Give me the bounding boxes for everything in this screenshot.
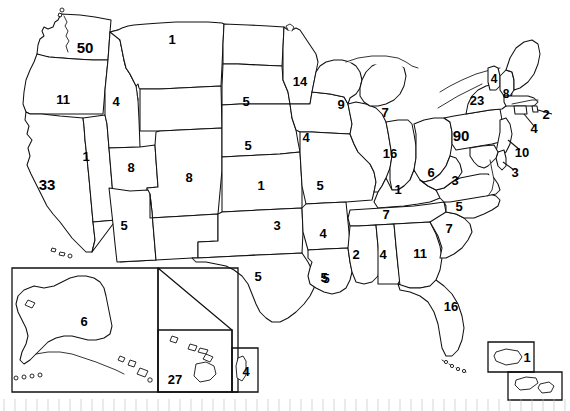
hawaii-island-molokai: [198, 348, 208, 354]
state-louisiana: [308, 248, 352, 294]
state-nebraska: [222, 104, 300, 157]
map-vector-canvas: [0, 0, 570, 411]
hawaii-island-kauai: [170, 336, 178, 343]
key-islet-2: [450, 364, 453, 367]
alaska-shape: [16, 276, 112, 364]
label-montana: 1: [168, 33, 175, 46]
label-mississippi: 2: [352, 248, 359, 261]
label-alaska: 6: [80, 315, 87, 328]
label-vermont: 4: [491, 73, 498, 85]
aleutian-islet-4: [38, 373, 42, 377]
dc-shape: [494, 349, 522, 365]
label-wisconsin: 9: [337, 98, 344, 111]
label-oregon: 11: [56, 93, 70, 106]
label-rhode-island: 2: [542, 108, 549, 121]
state-north-dakota: [223, 24, 284, 66]
key-islet-4: [462, 369, 465, 372]
label-tennessee: 7: [382, 208, 389, 221]
label-district-of-columbia: 1: [523, 351, 530, 364]
lower-right-inset-shape-2: [538, 382, 554, 393]
scan-artifact-strip: [0, 399, 570, 411]
key-islet-3: [456, 367, 459, 370]
islet-detail-2: [58, 13, 62, 17]
key-islet-1: [444, 360, 447, 363]
label-virginia: 3: [451, 174, 458, 187]
label-idaho: 4: [112, 95, 119, 108]
label-new-hampshire: 8: [503, 88, 510, 100]
label-arizona: 5: [120, 219, 127, 232]
alaska-islet-tiny: [148, 378, 152, 382]
us-map-figure: 50 11 33 1 4 1 8 8 5 5 5 5 1 3 5 14 4 5 …: [0, 0, 570, 411]
aleutian-islet-3: [30, 374, 34, 378]
label-connecticut: 4: [530, 122, 537, 135]
label-south-carolina: 7: [445, 222, 452, 235]
channel-islands-icon-2: [59, 252, 65, 256]
aleutian-islet-2: [22, 375, 26, 379]
label-new-york: 23: [470, 94, 484, 107]
label-minnesota: 14: [293, 75, 307, 88]
label-colorado: 8: [185, 171, 192, 184]
label-florida: 16: [444, 300, 458, 313]
label-illinois: 16: [383, 147, 397, 160]
alaska-islet-small: [128, 360, 136, 367]
label-nebraska: 1: [257, 179, 264, 192]
label-hawaii-inset: 4: [242, 365, 249, 378]
label-alabama: 4: [379, 248, 386, 261]
label-kentucky: 1: [394, 183, 401, 196]
state-florida: [398, 280, 464, 356]
label-delaware: 3: [511, 166, 518, 179]
label-nevada: 1: [82, 150, 89, 163]
channel-islands-icon-3: [68, 254, 72, 258]
label-south-dakota: 5: [244, 139, 251, 152]
state-arizona-full: [109, 188, 156, 262]
alaska-islet-kodiak: [137, 368, 148, 377]
label-georgia: 11: [413, 247, 427, 260]
hawaii-island-hawaii: [194, 362, 216, 382]
state-washington: [37, 14, 111, 60]
label-utah: 8: [127, 161, 134, 174]
state-south-dakota: [222, 64, 290, 105]
alaska-aleutian-chain: [36, 352, 124, 374]
label-north-dakota: 5: [242, 95, 249, 108]
label-missouri: 5: [316, 179, 323, 192]
label-arkansas: 4: [319, 227, 326, 240]
label-california: 33: [39, 177, 56, 192]
state-rhode-island: [532, 106, 538, 112]
state-michigan: [360, 60, 406, 106]
aleutian-islet-1: [14, 376, 18, 380]
label-iowa: 4: [302, 131, 309, 144]
label-kansas: 3: [273, 219, 280, 232]
label-west-virginia: 6: [427, 166, 434, 179]
label-louisiana: 5: [322, 272, 329, 285]
alaska-islet-small-2: [118, 356, 125, 362]
hawaii-island-maui: [203, 354, 213, 362]
lower-right-inset-shape-1: [515, 377, 538, 390]
label-texas: 5: [254, 270, 261, 283]
islet-detail: [60, 8, 64, 12]
state-connecticut: [514, 106, 527, 114]
label-michigan: 7: [381, 106, 388, 119]
label-pennsylvania: 90: [453, 128, 470, 143]
hawaii-island-oahu: [188, 344, 197, 351]
label-new-jersey: 10: [515, 146, 529, 159]
channel-islands-icon: [51, 248, 56, 252]
state-wyoming: [140, 86, 222, 131]
label-hawaii: 27: [168, 373, 182, 386]
state-maryland: [470, 145, 498, 168]
label-north-carolina: 5: [455, 200, 462, 213]
label-washington: 50: [77, 40, 94, 55]
